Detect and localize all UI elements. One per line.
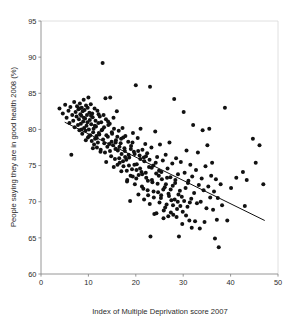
data-point <box>110 130 114 134</box>
data-point <box>109 154 113 158</box>
data-point <box>74 110 78 114</box>
data-point <box>136 192 140 196</box>
data-point <box>148 158 152 162</box>
y-tick-label: 80 <box>28 125 36 134</box>
data-point <box>196 151 200 155</box>
data-point <box>207 127 211 131</box>
data-point <box>169 187 173 191</box>
data-point <box>78 101 82 105</box>
data-point <box>158 200 162 204</box>
data-point <box>65 116 69 120</box>
data-point <box>183 171 187 175</box>
data-point <box>185 148 189 152</box>
data-point <box>131 174 135 178</box>
data-point <box>119 141 123 145</box>
data-point <box>241 170 245 174</box>
data-point <box>131 131 135 135</box>
data-point <box>89 114 93 118</box>
data-point <box>190 174 194 178</box>
data-point <box>166 214 170 218</box>
data-point <box>176 200 180 204</box>
data-point <box>157 174 161 178</box>
data-point <box>89 122 93 126</box>
data-point <box>154 161 158 165</box>
data-point <box>69 153 73 157</box>
data-point <box>148 202 152 206</box>
data-point <box>194 168 198 172</box>
data-point <box>215 218 219 222</box>
data-point <box>92 143 96 147</box>
data-point <box>160 177 164 181</box>
data-point <box>182 199 186 203</box>
data-point <box>97 132 101 136</box>
data-point <box>93 124 97 128</box>
data-point <box>121 164 125 168</box>
data-point <box>229 186 233 190</box>
data-point <box>70 113 74 117</box>
data-point <box>103 96 107 100</box>
data-point <box>113 157 117 161</box>
data-point <box>116 163 120 167</box>
data-point <box>140 172 144 176</box>
data-point <box>103 151 107 155</box>
data-point <box>184 186 188 190</box>
data-point <box>86 106 90 110</box>
data-point <box>115 135 119 139</box>
data-point <box>169 198 173 202</box>
y-tick-label: 65 <box>28 234 36 243</box>
data-point <box>203 164 207 168</box>
data-point <box>142 198 146 202</box>
data-point <box>155 155 159 159</box>
data-point <box>84 138 88 142</box>
data-point <box>91 146 95 150</box>
data-point <box>210 161 214 165</box>
data-point <box>169 211 173 215</box>
data-point <box>201 128 205 132</box>
data-point <box>212 190 216 194</box>
data-point <box>181 210 185 214</box>
data-point <box>211 208 215 212</box>
x-tick-label: 20 <box>132 278 140 287</box>
data-point <box>213 237 217 241</box>
data-point <box>120 152 124 156</box>
data-point <box>119 169 123 173</box>
data-point <box>163 206 167 210</box>
data-point <box>136 136 140 140</box>
plot-frame <box>41 21 278 274</box>
data-point <box>164 153 168 157</box>
data-point <box>108 149 112 153</box>
data-point <box>156 182 160 186</box>
data-point <box>152 195 156 199</box>
data-point <box>100 127 104 131</box>
data-point <box>112 127 116 131</box>
data-point <box>251 137 255 141</box>
data-point <box>173 178 177 182</box>
data-point <box>152 190 156 194</box>
data-point <box>150 178 154 182</box>
data-point <box>187 219 191 223</box>
data-point <box>72 100 76 104</box>
data-point <box>136 149 140 153</box>
data-point <box>171 203 175 207</box>
data-point <box>91 130 95 134</box>
data-point <box>97 112 101 116</box>
data-point <box>102 113 106 117</box>
data-point <box>121 126 125 130</box>
data-point <box>149 146 153 150</box>
data-point <box>165 176 169 180</box>
data-point <box>144 171 148 175</box>
data-point <box>174 156 178 160</box>
data-point <box>112 165 116 169</box>
data-point <box>88 118 92 122</box>
y-tick-label: 75 <box>28 161 36 170</box>
data-point <box>89 102 93 106</box>
data-point <box>123 155 127 159</box>
data-point <box>87 127 91 131</box>
data-point <box>223 106 227 110</box>
data-point <box>258 143 262 147</box>
data-point <box>146 188 150 192</box>
scatter-chart-figure: 606570758085909501020304050 Index of Mul… <box>0 0 297 329</box>
data-point <box>197 183 201 187</box>
data-point <box>193 219 197 223</box>
data-point <box>61 112 65 116</box>
